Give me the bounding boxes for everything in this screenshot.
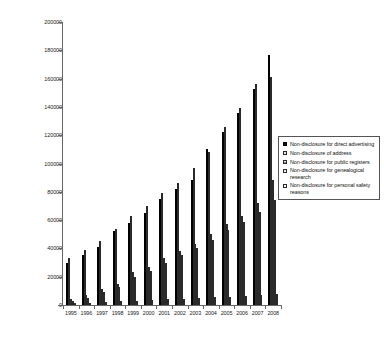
x-axis-tick-mark (110, 306, 111, 309)
legend-item-label: Non-disclosure of address (290, 150, 351, 156)
bar (196, 248, 198, 305)
x-axis-tick-mark (219, 306, 220, 309)
x-axis-tick-mark (125, 306, 126, 309)
x-axis-tick-mark (156, 306, 157, 309)
x-axis-tick-mark (172, 306, 173, 309)
bar (89, 303, 91, 305)
legend-item: Non-disclosure for direct advertising (283, 141, 376, 147)
bar (105, 302, 107, 305)
x-axis-tick-mark (63, 306, 64, 309)
x-axis-tick-mark (281, 306, 282, 309)
y-axis-tick-label: 120000 (24, 132, 62, 138)
legend-swatch-icon (283, 169, 287, 173)
legend-swatch-icon (283, 151, 287, 155)
bar (198, 298, 200, 305)
bar (136, 301, 138, 305)
y-axis-tick-label: 0 (24, 302, 62, 308)
bar (260, 295, 262, 305)
bar (120, 301, 122, 305)
x-axis-tick-mark (141, 306, 142, 309)
plot-area (63, 22, 281, 305)
bar (167, 299, 169, 305)
bar (243, 222, 245, 305)
legend-swatch-icon (283, 160, 287, 164)
bar (229, 297, 231, 305)
x-axis-tick-mark (250, 306, 251, 309)
bar (74, 303, 76, 305)
y-axis-tick-label: 100000 (24, 161, 62, 167)
bar (183, 299, 185, 305)
y-axis-tick-label: 20000 (24, 274, 62, 280)
y-axis-tick-label: 180000 (24, 47, 62, 53)
legend-swatch-icon (283, 184, 287, 188)
legend-item-label: Non-disclosure for direct advertising (290, 141, 374, 147)
x-axis-tick-mark (265, 306, 266, 309)
x-axis-tick-mark (94, 306, 95, 309)
legend-item-label: Non-disclosure for public registers (290, 159, 370, 165)
bar (259, 212, 261, 305)
bar (212, 240, 214, 305)
bar (214, 297, 216, 305)
x-axis-tick-mark (79, 306, 80, 309)
bar (181, 255, 183, 305)
bar (227, 230, 229, 305)
bar-chart: 2000001800001600001400001200001000008000… (0, 0, 384, 338)
x-axis-tick-mark (234, 306, 235, 309)
legend-item-label: Non-disclosure for personal safety reaso… (290, 182, 376, 195)
y-axis-tick-label: 200000 (24, 19, 62, 25)
legend-item-label: Non-disclosure for genealogical research (290, 167, 376, 180)
x-axis-tick-mark (203, 306, 204, 309)
x-axis-tick-mark (188, 306, 189, 309)
bar (245, 296, 247, 305)
legend-item: Non-disclosure for genealogical research (283, 167, 376, 180)
chart-legend: Non-disclosure for direct advertisingNon… (278, 136, 380, 200)
bar (274, 200, 276, 305)
bar (151, 300, 153, 305)
legend-item: Non-disclosure for public registers (283, 159, 376, 165)
y-axis-tick-label: 160000 (24, 76, 62, 82)
y-axis-tick-label: 40000 (24, 245, 62, 251)
legend-item: Non-disclosure of address (283, 150, 376, 156)
bar (68, 258, 70, 305)
y-axis-tick-label: 140000 (24, 104, 62, 110)
y-axis-tick-label: 80000 (24, 189, 62, 195)
y-axis-tick-label: 60000 (24, 217, 62, 223)
legend-swatch-icon (283, 142, 287, 146)
bar (276, 294, 278, 305)
x-axis-tick-label: 2008 (263, 310, 283, 316)
legend-item: Non-disclosure for personal safety reaso… (283, 182, 376, 195)
y-axis: 2000001800001600001400001200001000008000… (0, 0, 62, 338)
